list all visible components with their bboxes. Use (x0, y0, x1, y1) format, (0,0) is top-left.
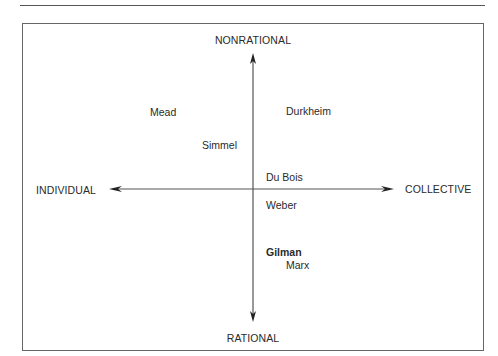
theorist-marx: Marx (286, 259, 309, 271)
axis-label-collective: COLLECTIVE (405, 183, 471, 195)
axis-label-nonrational: NONRATIONAL (215, 34, 291, 46)
axes (0, 0, 498, 356)
axis-label-rational: RATIONAL (227, 332, 280, 344)
theorist-durkheim: Durkheim (286, 105, 331, 117)
theorist-du-bois: Du Bois (266, 171, 303, 183)
theorist-mead: Mead (150, 106, 176, 118)
axis-label-individual: INDIVIDUAL (36, 184, 96, 196)
theorist-gilman: Gilman (266, 246, 302, 258)
theorist-weber: Weber (266, 199, 297, 211)
theorist-simmel: Simmel (202, 139, 237, 151)
